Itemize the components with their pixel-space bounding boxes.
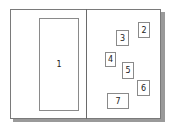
box-6: 6 <box>137 80 150 96</box>
box-2: 2 <box>138 22 150 38</box>
panel-divider <box>86 9 87 119</box>
box-1: 1 <box>39 18 79 111</box>
box-1-label: 1 <box>56 60 61 69</box>
box-3-label: 3 <box>120 34 125 43</box>
box-2-label: 2 <box>141 26 146 35</box>
box-5-label: 5 <box>125 66 130 75</box>
box-4: 4 <box>105 52 116 67</box>
box-7-label: 7 <box>115 97 120 106</box>
box-4-label: 4 <box>108 55 113 64</box>
box-3: 3 <box>116 30 129 46</box>
box-7: 7 <box>107 93 129 109</box>
box-5: 5 <box>122 62 134 79</box>
box-6-label: 6 <box>141 84 146 93</box>
